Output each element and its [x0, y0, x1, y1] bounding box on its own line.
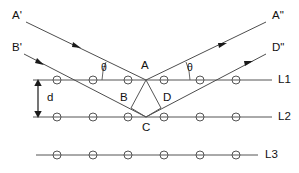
vertex-label-a: A [141, 59, 149, 71]
ray-label-b-prime: B' [12, 41, 22, 53]
plane-label-l3: L3 [265, 148, 278, 160]
incident-ray-a-prime: A' [12, 9, 146, 80]
ray-arrowhead-a-prime [72, 42, 81, 48]
segment-b-c [131, 108, 146, 117]
angle-label-theta-right: θ [187, 61, 193, 73]
reflected-ray-a-double-prime: A" [146, 9, 284, 80]
plane-label-l2: L2 [278, 110, 291, 122]
segment-a-b [131, 80, 146, 108]
segment-c-d [146, 108, 161, 117]
angle-theta-left: θ [101, 61, 107, 80]
vertex-label-d: D [163, 91, 171, 103]
bragg-diffraction-diagram: L1 L2 L3 A' [0, 0, 299, 173]
vertex-labels: A B C D [120, 59, 171, 133]
dimension-label-d: d [47, 91, 53, 103]
ray-arrowhead-b-prime [35, 58, 44, 65]
vertex-label-c: C [142, 121, 150, 133]
reflected-ray-d-double-prime: D" [146, 41, 284, 117]
lattice-plane-l3: L3 [36, 148, 278, 160]
ray-arrowhead-a-double-prime [218, 43, 227, 48]
diagram-canvas: L1 L2 L3 A' [0, 0, 299, 173]
lattice-plane-l2: L2 [33, 110, 291, 122]
vertex-label-b: B [120, 91, 128, 103]
interplanar-spacing-dimension: d [34, 79, 53, 118]
ray-label-a-prime: A' [12, 9, 22, 21]
ray-label-d-double-prime: D" [272, 41, 284, 53]
angle-theta-right: θ [186, 61, 193, 80]
ray-arrowhead-d-double-prime [244, 61, 253, 66]
segment-d-a [146, 80, 161, 108]
ray-label-a-double-prime: A" [272, 9, 284, 21]
incident-ray-b-prime: B' [12, 41, 146, 117]
plane-label-l1: L1 [278, 73, 291, 85]
ray-line-a-prime [26, 22, 146, 80]
ray-line-a-double-prime [146, 22, 266, 80]
angle-label-theta-left: θ [101, 61, 107, 73]
